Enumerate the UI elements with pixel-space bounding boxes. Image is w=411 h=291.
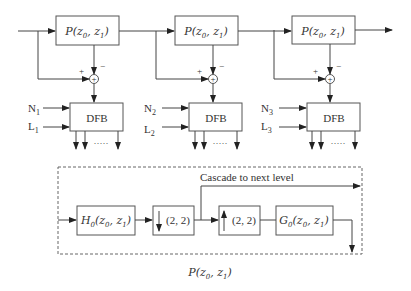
detail-caption: P(z0, z1) bbox=[187, 266, 232, 281]
l-label-1: L1 bbox=[28, 120, 39, 135]
l-label-2: L2 bbox=[144, 123, 155, 138]
cascade-label: Cascade to next level bbox=[200, 171, 294, 183]
minus-label-2: − bbox=[219, 61, 224, 71]
plus-label-2: + bbox=[197, 66, 202, 76]
upsample-label: (2, 2) bbox=[232, 214, 256, 227]
minus-label-3: − bbox=[336, 61, 341, 71]
plus-label-1: + bbox=[79, 66, 84, 76]
dfb-label-2: DFB bbox=[205, 112, 226, 124]
stage-3: P(z0, z1) + + − N3 L3 DFB ····· bbox=[238, 16, 392, 149]
stage-2: P(z0, z1) + + − N2 L2 DFB ····· bbox=[119, 16, 242, 149]
stage-1: P(z0, z1) + + − N1 L1 DFB ····· bbox=[18, 16, 123, 149]
n-label-1: N1 bbox=[28, 102, 40, 117]
p-block-detail: H0(z0, z1) (2, 2) Cascade to next level … bbox=[58, 167, 362, 281]
block-diagram: P(z0, z1) + + − N1 L1 DFB ····· P(z0, z1… bbox=[0, 0, 411, 291]
sum-plus-icon-3: + bbox=[327, 74, 332, 84]
dfb-label-1: DFB bbox=[86, 112, 107, 124]
dots-2: ····· bbox=[213, 138, 228, 148]
plus-label-3: + bbox=[313, 66, 318, 76]
dots-1: ····· bbox=[94, 138, 109, 148]
downsample-label: (2, 2) bbox=[166, 214, 190, 227]
g0-output-arrow bbox=[333, 220, 352, 252]
n-label-2: N2 bbox=[144, 102, 156, 117]
n-label-3: N3 bbox=[261, 102, 273, 117]
dots-3: ····· bbox=[331, 138, 346, 148]
sum-plus-icon-2: + bbox=[210, 74, 215, 84]
dfb-label-3: DFB bbox=[323, 112, 344, 124]
sum-plus-icon-1: + bbox=[91, 74, 96, 84]
l-label-3: L3 bbox=[261, 120, 272, 135]
minus-label-1: − bbox=[100, 61, 105, 71]
